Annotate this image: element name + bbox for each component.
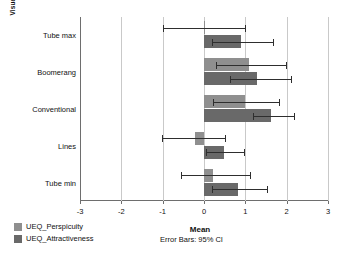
error-bar-cap xyxy=(216,62,217,69)
y-axis-category-label: Boomerang xyxy=(37,68,76,77)
gridline xyxy=(121,17,122,201)
error-bar xyxy=(213,102,279,103)
error-bar-cap xyxy=(213,99,214,106)
error-bar-cap xyxy=(212,186,213,193)
y-axis-category-label: Tube min xyxy=(45,178,76,187)
error-bar xyxy=(206,152,244,153)
error-bars-note: Error Bars: 95% CI xyxy=(160,235,223,244)
x-axis-tick xyxy=(328,201,329,204)
x-axis-tick-label: -1 xyxy=(159,207,166,216)
x-axis-tick-label: -3 xyxy=(77,207,84,216)
x-axis-tick-label: 0 xyxy=(202,207,206,216)
error-bar xyxy=(230,79,291,80)
x-axis-tick xyxy=(245,201,246,204)
error-bar xyxy=(181,175,250,176)
legend-swatch-icon xyxy=(14,235,22,243)
plot-area: -3-2-10123 xyxy=(80,17,328,201)
x-axis-tick-label: 3 xyxy=(326,207,330,216)
y-axis-title: Visualization xyxy=(9,0,16,50)
error-bar-cap xyxy=(250,172,251,179)
error-bar-cap xyxy=(206,149,207,156)
error-bar-cap xyxy=(291,76,292,83)
x-axis-tick xyxy=(287,201,288,204)
error-bar xyxy=(212,42,273,43)
error-bar-cap xyxy=(225,135,226,142)
error-bar-cap xyxy=(245,25,246,32)
chart-container: Visualization -3-2-10123 Mean UEQ_Perspi… xyxy=(0,0,338,271)
error-bar-cap xyxy=(253,113,254,120)
error-bar-cap xyxy=(279,99,280,106)
x-axis-tick xyxy=(80,201,81,204)
x-axis-tick-label: 1 xyxy=(243,207,247,216)
error-bar-cap xyxy=(294,113,295,120)
x-axis-tick xyxy=(163,201,164,204)
legend-swatch-icon xyxy=(14,223,22,231)
error-bar-cap xyxy=(212,39,213,46)
x-axis-tick-label: -2 xyxy=(118,207,125,216)
error-bar-cap xyxy=(163,25,164,32)
error-bar-cap xyxy=(181,172,182,179)
gridline xyxy=(328,17,329,201)
x-axis-tick xyxy=(121,201,122,204)
y-axis-category-label: Tube max xyxy=(43,31,76,40)
error-bar-cap xyxy=(286,62,287,69)
legend-label: UEQ_Perspicuity xyxy=(26,222,83,231)
error-bar xyxy=(253,116,294,117)
y-axis-category-label: Lines xyxy=(58,141,76,150)
legend-label: UEQ_Attractiveness xyxy=(26,234,94,243)
error-bar-cap xyxy=(230,76,231,83)
gridline xyxy=(163,17,164,201)
legend-item[interactable]: UEQ_Perspicuity xyxy=(14,221,94,232)
error-bar xyxy=(163,28,246,29)
gridline xyxy=(287,17,288,201)
legend-item[interactable]: UEQ_Attractiveness xyxy=(14,233,94,244)
error-bar xyxy=(212,189,267,190)
error-bar-cap xyxy=(273,39,274,46)
error-bar-cap xyxy=(162,135,163,142)
x-axis-tick-label: 2 xyxy=(285,207,289,216)
error-bar-cap xyxy=(244,149,245,156)
error-bar-cap xyxy=(267,186,268,193)
x-axis-title: Mean xyxy=(66,225,334,234)
y-axis-line xyxy=(80,17,81,201)
y-axis-category-label: Conventional xyxy=(32,105,76,114)
error-bar xyxy=(216,65,285,66)
chart-legend: UEQ_PerspicuityUEQ_Attractiveness xyxy=(14,221,94,245)
x-axis-tick xyxy=(204,201,205,204)
error-bar xyxy=(162,138,226,139)
